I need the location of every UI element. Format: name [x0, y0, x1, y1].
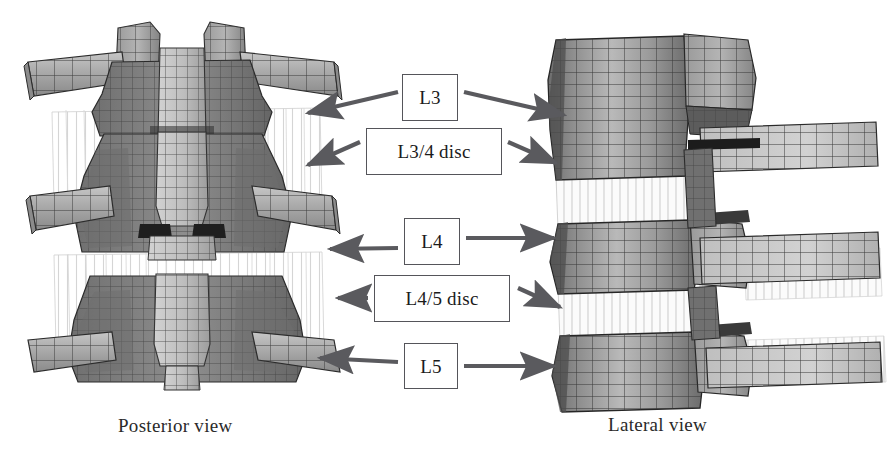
arrow-l5-left	[320, 358, 398, 362]
lateral-view-model	[548, 34, 886, 412]
label-box-l45-disc: L4/5 disc	[374, 275, 510, 322]
lateral-disc-l34	[556, 172, 702, 230]
label-box-l4: L4	[404, 218, 460, 265]
lateral-disc-l45	[558, 282, 704, 342]
arrow-l3-right	[464, 92, 564, 115]
caption-posterior-view: Posterior view	[118, 415, 233, 437]
posterior-view-model	[24, 22, 342, 390]
label-text-l34-disc: L3/4 disc	[397, 142, 470, 161]
label-box-l34-disc: L3/4 disc	[366, 128, 502, 175]
arrow-l4-left	[330, 248, 398, 249]
arrow-l34-left	[308, 142, 360, 165]
lateral-vertebra-l5	[552, 322, 882, 412]
label-box-l5: L5	[404, 343, 458, 389]
lateral-vertebra-l4	[550, 210, 880, 294]
arrow-l3-left	[308, 92, 398, 113]
label-text-l5: L5	[420, 357, 442, 376]
label-text-l3: L3	[419, 88, 441, 107]
posterior-vertebra-l3	[24, 22, 342, 136]
caption-lateral-view: Lateral view	[608, 414, 707, 436]
posterior-disc-l45	[54, 252, 324, 350]
arrow-l45-right	[518, 288, 560, 307]
lateral-posterior-fibres	[744, 248, 886, 386]
arrow-l34-right	[508, 142, 556, 163]
posterior-vertebra-l5	[28, 274, 340, 390]
lateral-vertebra-l3	[548, 34, 878, 180]
posterior-vertebra-l4	[26, 132, 340, 260]
posterior-disc-l34	[52, 108, 322, 206]
lateral-facet-column	[684, 148, 720, 340]
label-box-l3: L3	[402, 74, 458, 121]
fe-spine-model-figure: L3 L3/4 disc L4 L4/5 disc L5 Posterior v…	[0, 0, 892, 460]
label-text-l4: L4	[421, 232, 443, 251]
label-text-l45-disc: L4/5 disc	[405, 289, 478, 308]
